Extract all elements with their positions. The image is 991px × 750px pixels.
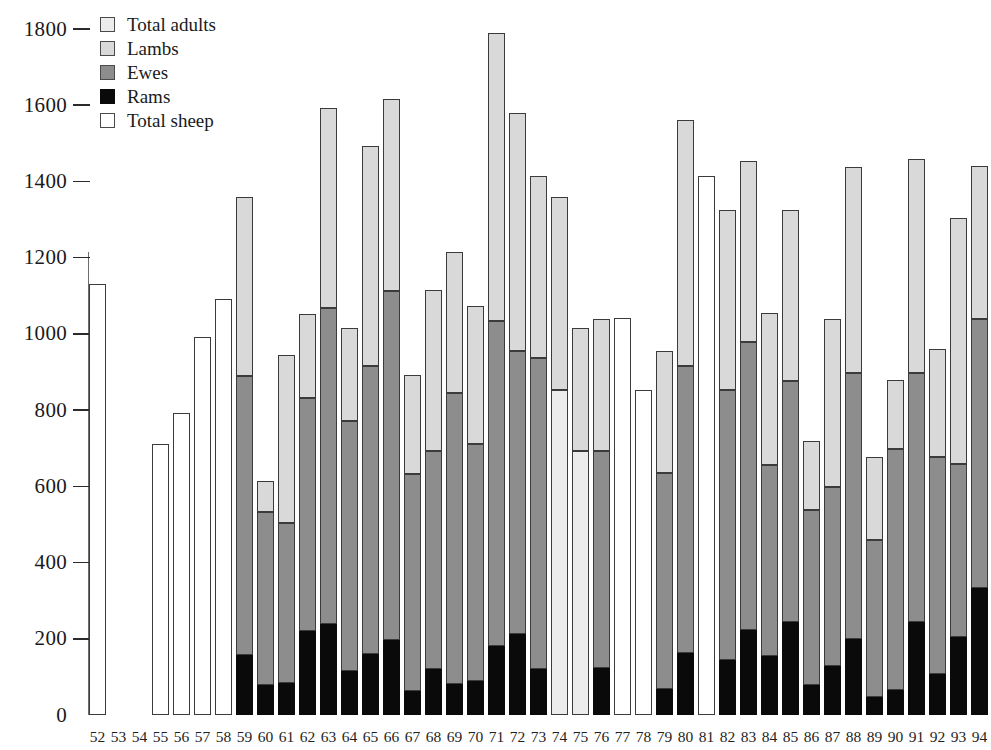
bar-segment-lambs[interactable] bbox=[803, 441, 820, 510]
bar-segment-rams[interactable] bbox=[929, 674, 946, 715]
bar-segment-total[interactable] bbox=[698, 176, 715, 715]
bar-segment-lambs[interactable] bbox=[887, 380, 904, 449]
bar-segment-lambs[interactable] bbox=[740, 161, 757, 342]
bar-segment-rams[interactable] bbox=[467, 681, 484, 715]
bar-segment-ewes[interactable] bbox=[803, 510, 820, 685]
bar-stack[interactable] bbox=[299, 29, 316, 715]
bar-stack[interactable] bbox=[404, 29, 421, 715]
bar-stack[interactable] bbox=[593, 29, 610, 715]
bar-segment-lambs[interactable] bbox=[236, 197, 253, 375]
bar-segment-rams[interactable] bbox=[908, 622, 925, 715]
bar-stack[interactable] bbox=[824, 29, 841, 715]
legend-item-total[interactable]: Total sheep bbox=[100, 108, 300, 132]
bar-stack[interactable] bbox=[677, 29, 694, 715]
bar-segment-rams[interactable] bbox=[824, 666, 841, 715]
bar-segment-ewes[interactable] bbox=[908, 373, 925, 622]
bar-segment-rams[interactable] bbox=[803, 685, 820, 715]
bar-segment-rams[interactable] bbox=[719, 660, 736, 715]
bar-segment-lambs[interactable] bbox=[320, 108, 337, 308]
bar-segment-ewes[interactable] bbox=[866, 540, 883, 698]
bar-segment-lambs[interactable] bbox=[509, 113, 526, 351]
bar-segment-rams[interactable] bbox=[656, 689, 673, 715]
bar-stack[interactable] bbox=[509, 29, 526, 715]
bar-segment-lambs[interactable] bbox=[467, 306, 484, 444]
bar-segment-ewes[interactable] bbox=[824, 487, 841, 666]
bar-segment-rams[interactable] bbox=[761, 656, 778, 715]
bar-segment-ewes[interactable] bbox=[929, 457, 946, 674]
bar-segment-ewes[interactable] bbox=[278, 523, 295, 683]
legend-item-lambs[interactable]: Lambs bbox=[100, 36, 300, 60]
bar-segment-rams[interactable] bbox=[509, 634, 526, 715]
bar-stack[interactable] bbox=[971, 29, 988, 715]
bar-segment-rams[interactable] bbox=[299, 631, 316, 715]
bar-stack[interactable] bbox=[845, 29, 862, 715]
bar-stack[interactable] bbox=[383, 29, 400, 715]
bar-segment-rams[interactable] bbox=[866, 697, 883, 715]
bar-segment-lambs[interactable] bbox=[950, 218, 967, 464]
bar-segment-adults[interactable] bbox=[572, 451, 589, 715]
bar-segment-lambs[interactable] bbox=[824, 319, 841, 487]
bar-stack[interactable] bbox=[572, 29, 589, 715]
bar-segment-lambs[interactable] bbox=[278, 355, 295, 523]
bar-segment-total[interactable] bbox=[215, 299, 232, 715]
bar-segment-ewes[interactable] bbox=[719, 390, 736, 661]
bar-segment-ewes[interactable] bbox=[845, 373, 862, 639]
bar-segment-rams[interactable] bbox=[950, 637, 967, 715]
bar-segment-ewes[interactable] bbox=[761, 465, 778, 656]
bar-segment-lambs[interactable] bbox=[404, 375, 421, 474]
bar-segment-rams[interactable] bbox=[320, 624, 337, 715]
bar-segment-ewes[interactable] bbox=[236, 376, 253, 655]
bar-stack[interactable] bbox=[425, 29, 442, 715]
bar-segment-lambs[interactable] bbox=[782, 210, 799, 381]
bar-stack[interactable] bbox=[740, 29, 757, 715]
bar-segment-ewes[interactable] bbox=[593, 451, 610, 668]
bar-segment-lambs[interactable] bbox=[593, 319, 610, 450]
bar-segment-lambs[interactable] bbox=[383, 99, 400, 291]
bar-stack[interactable] bbox=[929, 29, 946, 715]
bar-segment-lambs[interactable] bbox=[677, 120, 694, 365]
bar-segment-ewes[interactable] bbox=[299, 398, 316, 631]
bar-stack[interactable] bbox=[362, 29, 379, 715]
bar-stack[interactable] bbox=[551, 29, 568, 715]
bar-segment-ewes[interactable] bbox=[740, 342, 757, 629]
bar-stack[interactable] bbox=[446, 29, 463, 715]
bar-segment-lambs[interactable] bbox=[908, 159, 925, 372]
bar-segment-ewes[interactable] bbox=[530, 358, 547, 668]
bar-stack[interactable] bbox=[488, 29, 505, 715]
bar-segment-ewes[interactable] bbox=[362, 366, 379, 654]
bar-segment-lambs[interactable] bbox=[425, 290, 442, 451]
bar-segment-ewes[interactable] bbox=[467, 444, 484, 682]
bar-segment-rams[interactable] bbox=[845, 639, 862, 715]
bar-stack[interactable] bbox=[887, 29, 904, 715]
bar-segment-lambs[interactable] bbox=[488, 33, 505, 321]
bar-segment-lambs[interactable] bbox=[761, 313, 778, 465]
bar-segment-rams[interactable] bbox=[740, 630, 757, 715]
bar-stack[interactable] bbox=[320, 29, 337, 715]
bar-segment-rams[interactable] bbox=[488, 646, 505, 715]
bar-segment-lambs[interactable] bbox=[551, 197, 568, 390]
bar-segment-total[interactable] bbox=[194, 337, 211, 715]
bar-segment-rams[interactable] bbox=[677, 653, 694, 716]
bar-segment-total[interactable] bbox=[89, 284, 106, 715]
bar-segment-ewes[interactable] bbox=[383, 291, 400, 639]
bar-segment-rams[interactable] bbox=[278, 683, 295, 715]
legend-item-ewes[interactable]: Ewes bbox=[100, 60, 300, 84]
bar-segment-ewes[interactable] bbox=[425, 451, 442, 670]
bar-segment-rams[interactable] bbox=[341, 671, 358, 715]
bar-segment-lambs[interactable] bbox=[866, 457, 883, 540]
bar-stack[interactable] bbox=[656, 29, 673, 715]
bar-segment-total[interactable] bbox=[614, 318, 631, 715]
bar-segment-ewes[interactable] bbox=[950, 464, 967, 637]
bar-segment-ewes[interactable] bbox=[257, 512, 274, 684]
bar-stack[interactable] bbox=[719, 29, 736, 715]
bar-segment-rams[interactable] bbox=[404, 691, 421, 715]
bar-stack[interactable] bbox=[635, 29, 652, 715]
legend-item-rams[interactable]: Rams bbox=[100, 84, 300, 108]
bar-segment-lambs[interactable] bbox=[257, 481, 274, 512]
bar-stack[interactable] bbox=[950, 29, 967, 715]
bar-segment-total[interactable] bbox=[635, 390, 652, 715]
bar-stack[interactable] bbox=[698, 29, 715, 715]
bar-segment-ewes[interactable] bbox=[971, 319, 988, 588]
bar-segment-lambs[interactable] bbox=[719, 210, 736, 389]
bar-segment-rams[interactable] bbox=[257, 685, 274, 715]
